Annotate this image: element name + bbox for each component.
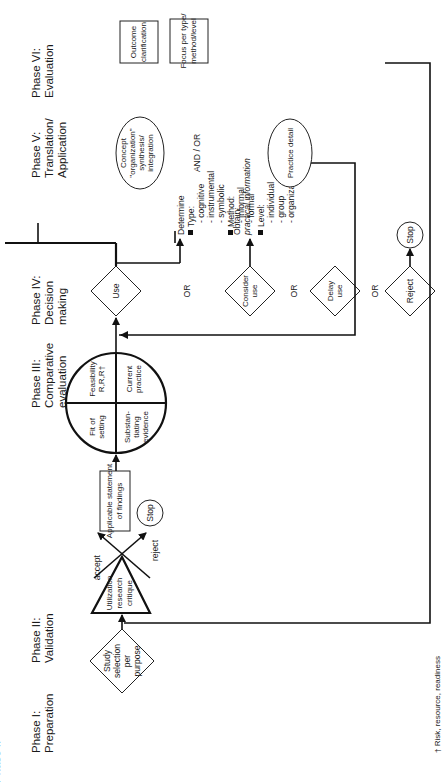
- delay-label: Delay: [326, 281, 335, 301]
- or-label-3: OR: [370, 285, 380, 298]
- stop-label-2: Stop: [405, 226, 415, 244]
- consider-label: Consider: [241, 275, 250, 307]
- phase-3-title: Phase III:: [30, 359, 42, 408]
- reject-label-diamond: Reject: [405, 278, 415, 303]
- phase-2-subtitle: Validation: [43, 613, 55, 663]
- fit-of-setting: setting: [97, 415, 106, 439]
- phase-4-title: Phase IV:: [30, 276, 42, 325]
- focus-text: Focus per type/: [179, 13, 188, 69]
- current-practice: Current: [125, 365, 134, 392]
- findings-box: Applicable statement of findings: [100, 463, 130, 538]
- consider-use-diamond: Consider use: [225, 266, 275, 316]
- phase-2-title: Phase II:: [30, 618, 42, 663]
- practice-text: Practice detail: [286, 128, 295, 178]
- substantiating-evidence: Substan-: [123, 411, 132, 443]
- phase-5-title: Phase V:: [30, 132, 42, 178]
- phase-1-label: Phase I:: [0, 741, 2, 783]
- triangle-text: critique: [125, 580, 134, 606]
- obtain-subtitle: practical information: [242, 158, 252, 236]
- concept-text: Concept: [119, 137, 128, 168]
- diamond-text: purpose: [132, 645, 142, 676]
- phase-4-subtitle: Decision: [43, 281, 55, 325]
- phase-5-subtitle: Translation/: [43, 118, 55, 178]
- outcome-text: Outcome: [129, 25, 138, 58]
- triangle-text: Utilization: [105, 576, 114, 611]
- triangle-text: research: [115, 577, 124, 608]
- and-or-label: AND / OR: [192, 134, 202, 172]
- substantiating-evidence: tiating: [132, 416, 141, 437]
- type-label: Type:: [186, 206, 196, 227]
- concept-text: synthesis/: [137, 134, 146, 170]
- feasibility: Feasibility: [88, 361, 97, 397]
- level-item: - group: [276, 196, 286, 223]
- phase-6-subtitle: Evaluation: [43, 44, 55, 98]
- type-item: - symbolic: [216, 184, 226, 223]
- reject-label: reject: [150, 539, 160, 561]
- diamond-text: Study: [102, 649, 112, 672]
- phase-6-title: Phase VI:: [30, 48, 42, 98]
- accept-label: accept: [92, 554, 102, 580]
- stop-circle-phase2: Stop: [137, 500, 163, 526]
- type-item: - cognitive: [196, 184, 206, 223]
- concept-ellipse: Concept "organization" synthesis/ integr…: [116, 117, 164, 189]
- outcome-box: Outcome clarification: [120, 21, 158, 63]
- or-label-1: OR: [182, 285, 192, 298]
- delay-use-diamond: Delay use: [310, 266, 360, 316]
- concept-text: integration: [146, 134, 155, 171]
- study-selection-diamond: Study selection per purpose: [90, 629, 154, 693]
- findings-text: of findings: [115, 483, 124, 519]
- phase-1-title: Phase I:: [30, 711, 42, 753]
- footnote: † Risk, resource, readiness: [433, 656, 442, 753]
- obtain-title: Obtain:: [232, 207, 242, 235]
- fit-of-setting: Fit of: [88, 417, 97, 436]
- diamond-text: per: [122, 655, 132, 668]
- phase-5-subtitle2: Application: [56, 122, 68, 178]
- current-practice: practice: [134, 364, 143, 393]
- focus-text: method/level: [189, 18, 198, 64]
- findings-text: Applicable statement: [105, 463, 114, 538]
- diamond-text: selection: [112, 644, 122, 678]
- type-item: - instrumental: [206, 171, 216, 223]
- or-label-2: OR: [289, 285, 299, 298]
- phase-4-subtitle2: making: [56, 288, 68, 325]
- use-diamond: Use: [91, 266, 141, 316]
- consider-label: use: [250, 284, 259, 297]
- diagram-stage: Phase I: Phase I: Preparation Phase II: …: [0, 0, 446, 783]
- determine-title: Determine: [176, 195, 186, 235]
- practice-detail-ellipse: Practice detail: [268, 119, 312, 187]
- feasibility: R,R,R†: [97, 366, 106, 392]
- focus-box: Focus per type/ method/level: [170, 13, 208, 69]
- stop-label: Stop: [145, 504, 155, 522]
- phase-1-subtitle: Preparation: [43, 694, 55, 753]
- concept-text: "organization": [128, 128, 137, 177]
- phase-headers: Phase I:: [0, 741, 2, 783]
- utilization-model-diagram: Phase I: Phase I: Preparation Phase II: …: [0, 0, 446, 783]
- comparative-circle: Fit of setting Feasibility R,R,R† Substa…: [66, 353, 166, 453]
- level-label: Level:: [256, 204, 266, 227]
- delay-label: use: [335, 284, 344, 297]
- phase-3-subtitle: Comparative: [43, 343, 55, 408]
- stop-circle-phase4: Stop: [397, 222, 423, 248]
- substantiating-evidence: evidence: [141, 410, 150, 443]
- level-item: - individual: [266, 182, 276, 223]
- outcome-text: clarification: [139, 22, 148, 62]
- use-label: Use: [111, 283, 121, 299]
- reject-diamond: Reject: [385, 266, 435, 316]
